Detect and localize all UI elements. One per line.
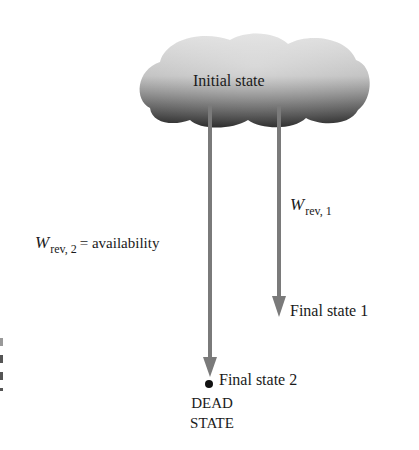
arrow-to-final-state-2 <box>203 105 217 377</box>
final-state-1-label: Final state 1 <box>290 303 368 319</box>
dead-state-dot <box>205 380 213 388</box>
work-subscript: rev, 2 <box>50 242 77 256</box>
dead-state-line-2: STATE <box>176 413 248 433</box>
cropped-text-fragment <box>0 372 3 380</box>
arrow-to-final-state-1 <box>272 105 286 317</box>
final-state-2-label: Final state 2 <box>219 372 297 388</box>
initial-state-label: Initial state <box>193 73 265 89</box>
diagram-graphics <box>0 0 419 450</box>
diagram-canvas: Initial state Wrev, 1 Wrev, 2= availabil… <box>0 0 419 450</box>
edge-label-w-rev-2: Wrev, 2= availability <box>35 234 159 251</box>
dead-state-label: DEAD STATE <box>176 393 248 433</box>
availability-text: = availability <box>80 235 160 251</box>
work-subscript: rev, 1 <box>305 204 332 218</box>
dead-state-line-1: DEAD <box>176 393 248 413</box>
cropped-text-fragment <box>0 338 3 346</box>
cropped-text-fragment <box>0 355 3 363</box>
work-symbol: W <box>290 195 304 214</box>
edge-label-w-rev-1: Wrev, 1 <box>290 196 332 213</box>
work-symbol: W <box>35 233 49 252</box>
cropped-text-fragment <box>0 388 3 391</box>
